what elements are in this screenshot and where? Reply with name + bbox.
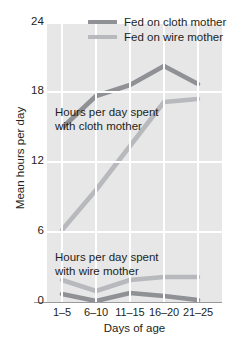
legend-label-cloth: Fed on cloth mother [124,16,226,28]
legend-item-cloth: Fed on cloth mother [88,16,226,28]
y-tick-0: 0 [2,295,44,306]
annotation-cloth-line1: Hours per day spent [55,106,159,120]
annotation-wire-mother: Hours per day spent with wire mother [55,251,159,278]
annotation-wire-line2: with wire mother [55,265,159,279]
legend-item-wire: Fed on wire mother [88,31,226,43]
gridline-y-18 [47,91,222,93]
annotation-cloth-line2: with cloth mother [55,120,159,134]
y-tick-24: 24 [2,16,44,27]
chart-legend: Fed on cloth mother Fed on wire mother [88,16,226,43]
legend-swatch-cloth-icon [88,20,117,25]
annotation-cloth-mother: Hours per day spent with cloth mother [55,106,159,133]
x-tick-21-25: 21–25 [178,306,218,318]
x-axis-title: Days of age [47,322,222,334]
y-axis-title: Mean hours per day [14,68,26,248]
line-chart: 24 18 12 6 0 1–5 6–10 11–15 16–20 21–25 … [0,0,234,339]
x-axis-line [34,302,222,303]
legend-swatch-wire-icon [88,35,117,40]
gridline-x-21-25 [197,22,199,302]
gridline-y-6 [47,231,222,233]
legend-label-wire: Fed on wire mother [124,31,223,43]
annotation-wire-line1: Hours per day spent [55,251,159,265]
gridline-y-12 [47,161,222,163]
gridline-x-16-20 [163,22,165,302]
